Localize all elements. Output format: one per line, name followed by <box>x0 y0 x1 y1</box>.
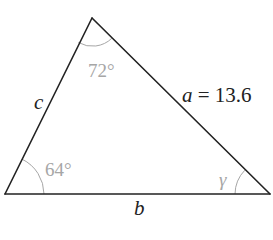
side-label-a: a = 13.6 <box>182 85 252 106</box>
angle-arc-bottom-left <box>22 159 44 194</box>
angle-label-bottom-left: 64° <box>45 160 72 179</box>
side-a-value: 13.6 <box>215 83 252 107</box>
angle-label-top: 72° <box>88 61 115 80</box>
side-label-c: c <box>34 92 43 113</box>
side-label-b: b <box>134 198 145 217</box>
angle-arc-bottom-right <box>235 170 245 194</box>
angle-arc-top <box>78 38 111 46</box>
side-a-equals: = <box>198 83 210 107</box>
side-a-name: a <box>182 83 193 107</box>
angle-label-gamma: γ <box>219 170 227 189</box>
